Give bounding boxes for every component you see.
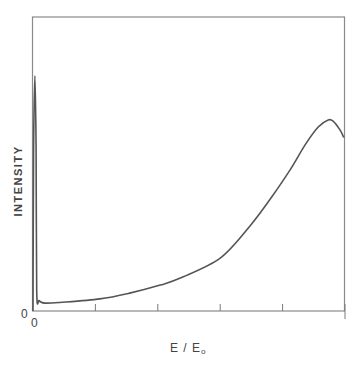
- x-axis-label: E / Eo: [170, 341, 206, 356]
- y-tick-label-0: 0: [21, 307, 28, 321]
- x-tick-label-0: 0: [31, 316, 38, 330]
- intensity-curve: [33, 76, 344, 311]
- plot-frame: [33, 17, 345, 311]
- x-axis-label-subscript: o: [201, 347, 206, 356]
- x-axis-label-main: E / E: [170, 341, 201, 355]
- y-axis-label: INTENSITY: [12, 146, 24, 217]
- chart: 0 0 INTENSITY E / Eo: [0, 0, 361, 365]
